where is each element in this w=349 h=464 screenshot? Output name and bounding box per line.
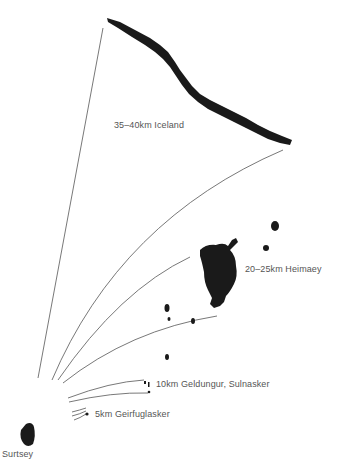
islet-on-ray (191, 318, 195, 324)
label-surtsey: Surtsey (2, 449, 33, 459)
ray-geldungur-2 (69, 393, 148, 402)
geldungur-islet (144, 381, 146, 384)
ray-geirfuglasker-1 (72, 408, 86, 412)
label-geirfuglasker: 5km Geirfuglasker (95, 409, 170, 419)
islet-south (165, 354, 169, 360)
sulnasker-islet (148, 382, 150, 387)
label-heimaey: 20–25km Heimaey (245, 264, 322, 274)
geirfuglasker-islet (85, 412, 88, 415)
label-geldungur-sulnasker: 10km Geldungur, Sulnasker (156, 379, 270, 389)
dispersal-rays (38, 28, 283, 420)
islet-west-2 (168, 317, 171, 321)
islet-west-1 (165, 304, 170, 312)
surtsey-island (20, 423, 34, 446)
dispersal-diagram (0, 0, 349, 464)
islet-east (263, 245, 269, 251)
ray-heimaey-south (63, 316, 217, 383)
sulnasker-dot (148, 391, 151, 394)
islet-north-east (271, 221, 279, 231)
ray-iceland-west (38, 28, 103, 378)
heimaey-island (200, 238, 238, 308)
label-iceland: 35–40km Iceland (114, 120, 184, 130)
